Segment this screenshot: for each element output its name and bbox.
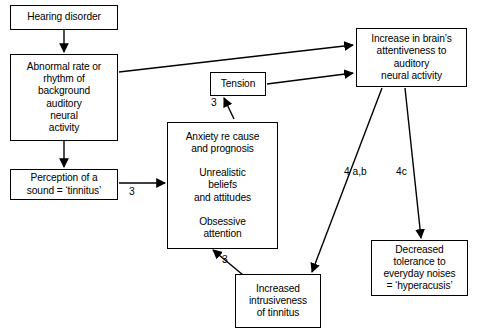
node-increase-brain-attentiveness: Increase in brain’s attentiveness to aud… xyxy=(356,28,467,87)
diagram-canvas: Hearing disorder Abnormal rate or rhythm… xyxy=(0,0,481,329)
edge-tension-to-brain xyxy=(267,73,353,84)
edge-label-anxiety-to-tension: 3 xyxy=(211,97,217,108)
node-perception-of-sound: Perception of a sound = ‘tinnitus’ xyxy=(10,169,118,200)
edge-abnormal-to-brain xyxy=(119,45,353,72)
edge-intrusive-to-anxiety xyxy=(213,250,243,275)
edge-label-brain-to-decreased: 4c xyxy=(396,166,407,177)
edge-brain-to-decreased xyxy=(405,88,421,238)
edge-label-perception-to-anxiety: 3 xyxy=(129,186,135,197)
node-anxiety-beliefs-attention: Anxiety re cause and prognosis Unrealist… xyxy=(167,122,278,249)
node-decreased-tolerance: Decreased tolerance to everyday noises =… xyxy=(371,240,468,296)
edge-anxiety-to-tension xyxy=(224,98,234,119)
edge-label-brain-to-intrusive: 4 a,b xyxy=(344,166,367,177)
node-abnormal-rate: Abnormal rate or rhythm of background au… xyxy=(10,54,118,141)
node-increased-intrusiveness: Increased intrusiveness of tinnitus xyxy=(235,274,321,328)
node-hearing-disorder: Hearing disorder xyxy=(10,5,118,30)
node-tension: Tension xyxy=(210,72,266,96)
edge-label-intrusive-to-anxiety: 3 xyxy=(222,254,228,265)
